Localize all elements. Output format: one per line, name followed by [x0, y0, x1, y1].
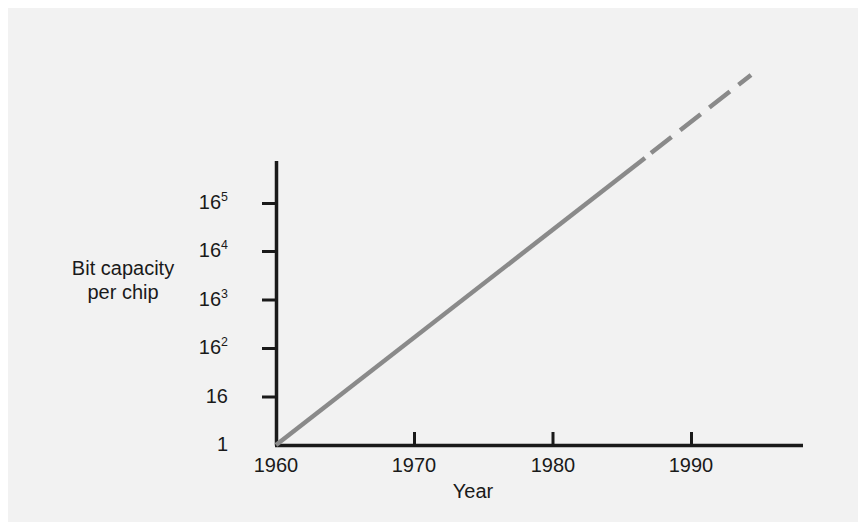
y-tick-label-16-2-exponent: 2	[221, 335, 228, 349]
y-axis-title-line-2: per chip	[48, 280, 198, 304]
figure-canvas: 165 164 163 162 16 1 1960 1970 1980 1990…	[0, 0, 866, 530]
x-axis-title: Year	[423, 479, 523, 503]
x-tick-label-1970: 1970	[374, 454, 454, 477]
y-tick-label-16-3-base: 16	[199, 288, 221, 310]
y-tick-label-16: 16	[158, 385, 228, 408]
x-tick-label-1980: 1980	[513, 454, 593, 477]
y-tick-label-1: 1	[158, 433, 228, 456]
y-tick-label-16-5-exponent: 5	[221, 190, 228, 204]
data-line-solid	[276, 158, 645, 445]
data-line-dashed	[651, 75, 751, 153]
y-axis-title: Bit capacity per chip	[48, 256, 198, 304]
y-tick-label-16-5-base: 16	[199, 191, 221, 213]
y-axis-title-line-1: Bit capacity	[48, 256, 198, 280]
y-tick-label-16-2-base: 16	[199, 336, 221, 358]
y-tick-label-16-3-exponent: 3	[221, 287, 228, 301]
y-tick-label-16-2: 162	[158, 336, 228, 359]
y-tick-label-16-4-base: 16	[199, 239, 221, 261]
plot-area: 165 164 163 162 16 1 1960 1970 1980 1990…	[8, 8, 866, 530]
y-tick-label-16-5: 165	[158, 191, 228, 214]
x-tick-label-1990: 1990	[651, 454, 731, 477]
x-tick-label-1960: 1960	[236, 454, 316, 477]
y-tick-label-16-4-exponent: 4	[221, 238, 228, 252]
